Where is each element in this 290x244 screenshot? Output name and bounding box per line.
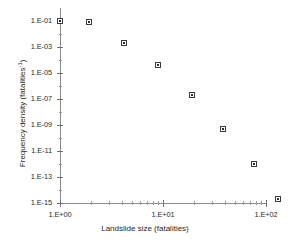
y-axis-title: Frequency density (fatalities-1) [17,23,28,203]
x-axis-minor-tick [147,201,148,205]
y-axis-minor-tick [59,164,62,165]
y-axis-minor-tick [59,34,62,35]
x-axis-minor-tick [153,201,154,205]
x-axis-tick [60,200,61,207]
x-axis-minor-tick [109,201,110,205]
y-axis-tick [57,47,63,48]
data-point [121,40,127,46]
data-point [189,92,195,98]
x-axis-title: Landslide size (fatalities) [0,224,290,233]
y-axis-tick [57,151,63,152]
data-point [155,62,161,68]
x-axis-minor-tick [194,201,195,205]
data-point [86,19,92,25]
x-axis-minor-tick [235,201,236,205]
y-axis-tick [57,99,63,100]
y-axis-minor-tick [59,60,62,61]
x-axis-minor-tick [122,201,123,205]
x-axis-minor-tick [140,201,141,205]
x-axis-tick [266,200,267,207]
x-axis-minor-tick [158,201,159,205]
landslide-frequency-density-chart: 1.E-011.E-031.E-051.E-071.E-091.E-111.E-… [0,0,290,244]
x-axis-minor-tick [250,201,251,205]
data-point [275,196,281,202]
data-point [57,18,63,24]
x-axis-minor-tick [256,201,257,205]
data-point [220,126,226,132]
x-axis-minor-tick [243,201,244,205]
x-axis-tick [163,200,164,207]
y-axis-title-paren: ) [18,60,27,63]
y-axis-minor-tick [59,190,62,191]
x-axis-tick-label: 1.E+02 [254,210,277,219]
y-axis-minor-tick [59,86,62,87]
plot-area [60,8,266,204]
x-axis-minor-tick [132,201,133,205]
y-axis-tick [57,73,63,74]
y-axis-minor-tick [59,112,62,113]
y-axis-tick [57,177,63,178]
data-point [251,161,257,167]
x-axis-minor-tick [261,201,262,205]
y-axis-minor-tick [59,138,62,139]
x-axis-minor-tick [225,201,226,205]
x-axis-minor-tick [91,201,92,205]
y-axis-tick [57,125,63,126]
x-axis-tick-label: 1.E+01 [151,210,174,219]
y-axis-title-exponent: -1 [17,62,23,67]
x-axis-minor-tick [212,201,213,205]
x-axis-tick-label: 1.E+00 [48,210,71,219]
y-axis-title-text: Frequency density (fatalities [18,68,27,168]
